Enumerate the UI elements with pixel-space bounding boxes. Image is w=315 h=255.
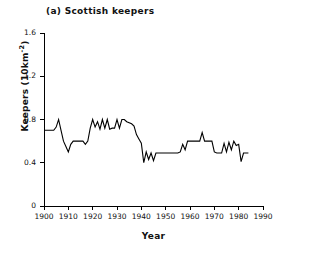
y-axis-tick-label: 1.2 [10, 71, 36, 80]
data-series-line [44, 120, 248, 163]
chart-figure: (a) Scottish keepers Keepers (10km-2) Ye… [0, 0, 315, 255]
y-axis-tick-label: 1.6 [10, 28, 36, 37]
axes [40, 33, 263, 210]
y-axis-tick-label: 0.4 [10, 158, 36, 167]
y-axis-tick-label: 0 [10, 201, 36, 210]
y-axis-tick-label: 0.8 [10, 115, 36, 124]
data-series-group [44, 120, 248, 163]
x-axis-tick-label: 1990 [248, 212, 278, 221]
